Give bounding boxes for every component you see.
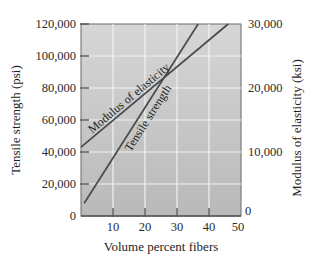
x-tick-label: 10 bbox=[107, 220, 120, 234]
y2-tick-label: 20,000 bbox=[248, 81, 282, 95]
x-tick-label: 30 bbox=[171, 220, 184, 234]
y-tick-label: 100,000 bbox=[35, 49, 76, 63]
left-axis-tick-labels: 020,00040,00060,00080,000100,000120,000 bbox=[35, 17, 76, 223]
x-axis-title: Volume percent fibers bbox=[104, 239, 219, 254]
y2-tick-label: 30,000 bbox=[248, 17, 282, 31]
y-axis-title: Tensile strength (psi) bbox=[8, 65, 23, 175]
y2-tick-label: 10,000 bbox=[248, 145, 282, 159]
x-tick-label: 50 bbox=[232, 220, 245, 234]
x-axis-tick-labels: 1020304050 bbox=[107, 220, 245, 234]
y-tick-label: 80,000 bbox=[42, 81, 76, 95]
y2-tick-label: 0 bbox=[245, 204, 251, 218]
y-tick-label: 20,000 bbox=[42, 177, 76, 191]
y-tick-label: 0 bbox=[70, 209, 76, 223]
y-tick-label: 120,000 bbox=[35, 17, 76, 31]
right-axis-tick-labels: 010,00020,00030,000 bbox=[245, 17, 282, 218]
x-tick-label: 40 bbox=[203, 220, 216, 234]
chart: 020,00040,00060,00080,000100,000120,000 … bbox=[0, 0, 312, 264]
y-tick-label: 40,000 bbox=[42, 145, 76, 159]
x-tick-label: 20 bbox=[139, 220, 152, 234]
y-tick-label: 60,000 bbox=[42, 113, 76, 127]
y2-axis-title: Modulus of elasticity (ksi) bbox=[289, 59, 304, 197]
